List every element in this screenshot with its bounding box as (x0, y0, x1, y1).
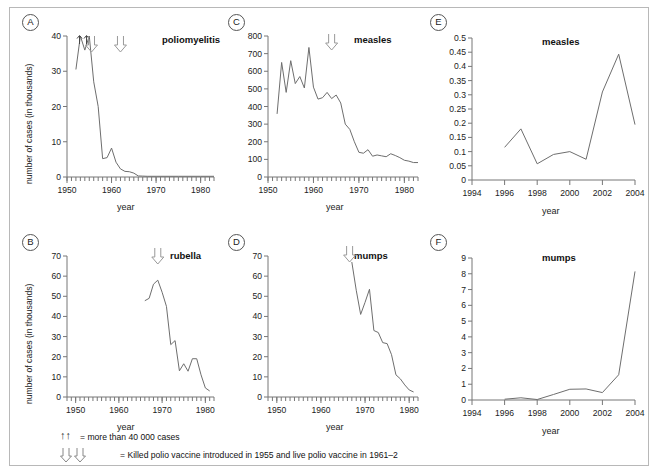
svg-text:1970: 1970 (153, 405, 172, 415)
svg-text:40: 40 (51, 31, 61, 41)
svg-text:50: 50 (51, 291, 61, 301)
svg-text:0.5: 0.5 (454, 33, 466, 43)
svg-text:2004: 2004 (625, 408, 644, 418)
svg-text:2002: 2002 (593, 188, 612, 198)
panel-a-plot: 0102030401950196019701980 (22, 14, 222, 199)
svg-text:1: 1 (461, 379, 466, 389)
svg-text:60: 60 (51, 271, 61, 281)
svg-text:800: 800 (248, 31, 263, 41)
svg-text:0.2: 0.2 (454, 118, 466, 128)
svg-text:3: 3 (461, 348, 466, 358)
svg-text:1960: 1960 (304, 185, 323, 195)
svg-text:1996: 1996 (495, 408, 514, 418)
svg-text:20: 20 (51, 352, 61, 362)
svg-text:70: 70 (252, 251, 262, 261)
svg-text:20: 20 (252, 352, 262, 362)
panel-d-plot: 0102030405060701950196019701980 (228, 234, 428, 419)
svg-text:0: 0 (257, 392, 262, 402)
panel-b-xlabel: year (117, 422, 135, 432)
svg-text:2004: 2004 (625, 188, 644, 198)
svg-text:0.25: 0.25 (449, 104, 466, 114)
figure-root: A poliomyelitis number of cases (in thou… (0, 0, 658, 474)
svg-text:200: 200 (248, 137, 263, 147)
svg-text:1998: 1998 (528, 408, 547, 418)
legend-up-arrows-text: = more than 40 000 cases (80, 432, 180, 442)
legend-down-arrows-text: = Killed polio vaccine introduced in 195… (120, 450, 398, 460)
svg-text:1980: 1980 (196, 405, 215, 415)
panel-d-xlabel: year (326, 422, 344, 432)
svg-text:1950: 1950 (57, 185, 76, 195)
svg-text:2000: 2000 (560, 188, 579, 198)
panel-e-xlabel: year (542, 206, 560, 216)
svg-text:0.1: 0.1 (454, 147, 466, 157)
svg-text:0.05: 0.05 (449, 161, 466, 171)
svg-text:5: 5 (461, 316, 466, 326)
svg-text:700: 700 (248, 49, 263, 59)
svg-text:400: 400 (248, 102, 263, 112)
svg-text:1970: 1970 (147, 185, 166, 195)
svg-text:0: 0 (56, 392, 61, 402)
svg-text:1980: 1980 (191, 185, 210, 195)
svg-text:10: 10 (51, 137, 61, 147)
svg-text:30: 30 (252, 332, 262, 342)
svg-text:0: 0 (461, 175, 466, 185)
svg-text:0: 0 (56, 172, 61, 182)
svg-text:1994: 1994 (462, 408, 481, 418)
svg-text:0.15: 0.15 (449, 132, 466, 142)
svg-text:1970: 1970 (355, 405, 374, 415)
svg-text:0: 0 (257, 172, 262, 182)
svg-text:0.4: 0.4 (454, 61, 466, 71)
svg-text:6: 6 (461, 300, 466, 310)
svg-text:0.35: 0.35 (449, 76, 466, 86)
panel-b-plot: 0102030405060701950196019701980 (22, 234, 222, 419)
svg-text:1994: 1994 (462, 188, 481, 198)
svg-text:8: 8 (461, 269, 466, 279)
down-arrows-icon (60, 447, 94, 464)
svg-text:600: 600 (248, 66, 263, 76)
svg-text:1980: 1980 (395, 185, 414, 195)
svg-text:500: 500 (248, 84, 263, 94)
panel-f-plot: 0123456789199419961998200020022004 (430, 234, 645, 424)
svg-text:0.45: 0.45 (449, 47, 466, 57)
svg-text:1950: 1950 (267, 405, 286, 415)
svg-text:1950: 1950 (258, 185, 277, 195)
svg-text:1960: 1960 (109, 405, 128, 415)
svg-text:30: 30 (51, 66, 61, 76)
up-arrows-icon: ↑↑ (60, 430, 71, 441)
svg-text:10: 10 (51, 372, 61, 382)
svg-text:0.3: 0.3 (454, 90, 466, 100)
svg-text:1998: 1998 (528, 188, 547, 198)
svg-text:2000: 2000 (560, 408, 579, 418)
svg-text:40: 40 (51, 311, 61, 321)
svg-text:0: 0 (461, 395, 466, 405)
svg-text:9: 9 (461, 253, 466, 263)
svg-text:1950: 1950 (66, 405, 85, 415)
panel-c-xlabel: year (326, 202, 344, 212)
panel-e-plot: 00.050.10.150.20.250.30.350.40.450.51994… (430, 14, 645, 204)
svg-text:10: 10 (252, 372, 262, 382)
svg-text:100: 100 (248, 154, 263, 164)
svg-text:20: 20 (51, 102, 61, 112)
svg-text:7: 7 (461, 285, 466, 295)
panel-c-plot: 0100200300400500600700800195019601970198… (228, 14, 428, 199)
svg-text:2002: 2002 (593, 408, 612, 418)
panel-f-xlabel: year (542, 426, 560, 436)
svg-text:1970: 1970 (349, 185, 368, 195)
svg-text:50: 50 (252, 291, 262, 301)
svg-text:30: 30 (51, 332, 61, 342)
svg-text:4: 4 (461, 332, 466, 342)
svg-text:2: 2 (461, 363, 466, 373)
svg-text:300: 300 (248, 119, 263, 129)
svg-text:70: 70 (51, 251, 61, 261)
svg-text:1996: 1996 (495, 188, 514, 198)
svg-text:1960: 1960 (102, 185, 121, 195)
svg-text:40: 40 (252, 311, 262, 321)
svg-text:1980: 1980 (400, 405, 419, 415)
svg-text:60: 60 (252, 271, 262, 281)
svg-text:1960: 1960 (311, 405, 330, 415)
panel-a-xlabel: year (117, 202, 135, 212)
